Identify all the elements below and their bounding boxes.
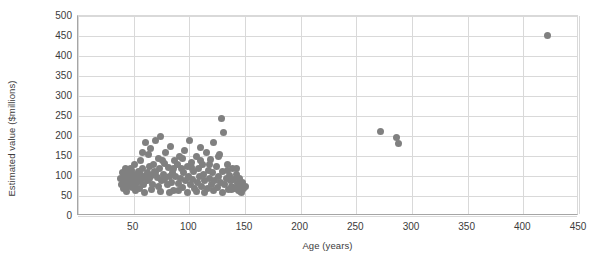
data-point	[377, 128, 384, 135]
x-axis-tick-label: 250	[335, 221, 375, 232]
data-point	[188, 164, 195, 171]
data-point	[170, 165, 177, 172]
y-axis-tick-label: 400	[34, 50, 72, 61]
x-axis-tick-label: 100	[168, 221, 208, 232]
x-axis-title: Age (years)	[77, 240, 578, 251]
data-point	[161, 160, 168, 167]
data-point	[201, 189, 208, 196]
data-point	[123, 188, 130, 195]
data-point	[193, 188, 200, 195]
y-axis-tick-label: 0	[34, 210, 72, 221]
x-axis-tick-label: 150	[224, 221, 264, 232]
gridline-vertical	[579, 16, 580, 214]
data-point	[167, 143, 174, 150]
data-point	[168, 179, 175, 186]
data-point	[218, 115, 225, 122]
data-point	[181, 147, 188, 154]
y-axis-tick-label: 300	[34, 90, 72, 101]
data-point	[179, 155, 186, 162]
y-axis-title: Estimated value ($millions)	[0, 0, 22, 277]
data-point	[157, 133, 164, 140]
data-point	[147, 145, 154, 152]
y-axis-tick-label: 350	[34, 70, 72, 81]
data-point	[210, 139, 217, 146]
data-point	[219, 189, 226, 196]
x-axis-tick-label: 200	[280, 221, 320, 232]
data-point	[206, 161, 213, 168]
y-axis-tick-label: 450	[34, 30, 72, 41]
plot-area	[77, 15, 578, 215]
x-axis-tick-label: 450	[558, 221, 598, 232]
data-point	[213, 163, 220, 170]
data-point	[175, 187, 182, 194]
y-axis-tick-label: 100	[34, 170, 72, 181]
data-point	[228, 186, 235, 193]
x-axis-tick-label: 350	[447, 221, 487, 232]
data-point	[157, 188, 164, 195]
x-axis-tick-label: 50	[113, 221, 153, 232]
data-point	[186, 137, 193, 144]
y-axis-tick-label: 50	[34, 190, 72, 201]
x-axis-tick-label: 300	[391, 221, 431, 232]
y-axis-tick-label: 500	[34, 10, 72, 21]
data-point	[395, 140, 402, 147]
y-axis-tick-labels: 050100150200250300350400450500	[28, 15, 72, 215]
data-point	[233, 165, 240, 172]
data-points-layer	[78, 16, 577, 214]
x-axis-tick-label: 400	[502, 221, 542, 232]
data-point	[146, 163, 153, 170]
data-point	[210, 187, 217, 194]
y-axis-tick-label: 150	[34, 150, 72, 161]
data-point	[237, 188, 244, 195]
data-point	[128, 167, 135, 174]
data-point	[132, 187, 139, 194]
data-point	[220, 129, 227, 136]
data-point	[148, 186, 155, 193]
scatter-chart: Estimated value ($millions) 050100150200…	[0, 0, 607, 277]
data-point	[184, 189, 191, 196]
gridline-horizontal	[78, 216, 577, 217]
data-point	[137, 157, 144, 164]
y-axis-tick-label: 250	[34, 110, 72, 121]
y-axis-tick-label: 200	[34, 130, 72, 141]
x-axis-tick-labels: 50100150200250300350400450	[77, 221, 578, 235]
data-point	[145, 151, 152, 158]
data-point	[215, 153, 222, 160]
data-point	[162, 149, 169, 156]
data-point	[224, 167, 231, 174]
data-point	[544, 32, 551, 39]
data-point	[166, 189, 173, 196]
